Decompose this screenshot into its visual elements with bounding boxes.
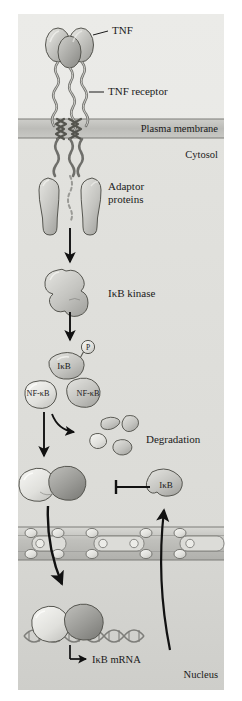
label-nucleus: Nucleus bbox=[184, 669, 218, 680]
ikb-protein-label: IκB bbox=[159, 480, 173, 490]
nfkb-left-label: NF-κB bbox=[27, 389, 50, 398]
phosphate-label: P bbox=[86, 343, 90, 352]
label-adaptor-line2: proteins bbox=[108, 193, 143, 205]
label-ikb-mrna: IκB mRNA bbox=[92, 654, 141, 665]
pathway-figure: P IκB NF-κB NF-κB IκB bbox=[0, 0, 242, 701]
label-cytosol: Cytosol bbox=[185, 149, 218, 160]
ikb-subunit-label: IκB bbox=[57, 361, 71, 371]
nfkb-right-label: NF-κB bbox=[77, 389, 100, 398]
label-plasma-membrane: Plasma membrane bbox=[141, 123, 219, 134]
label-ikb-kinase: IκB kinase bbox=[108, 287, 156, 299]
label-tnf: TNF bbox=[112, 24, 133, 36]
label-tnf-receptor: TNF receptor bbox=[108, 85, 168, 97]
label-adaptor-line1: Adaptor bbox=[108, 180, 144, 192]
label-degradation: Degradation bbox=[146, 433, 201, 445]
